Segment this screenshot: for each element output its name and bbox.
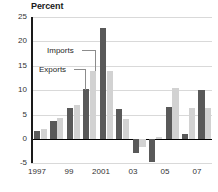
x-tick-2001: 2001 bbox=[86, 167, 116, 176]
exports-callout-label: Exports bbox=[39, 65, 66, 74]
bar-exports-2004 bbox=[149, 139, 155, 162]
exports-leader-vertical bbox=[85, 69, 86, 90]
gridline-10 bbox=[31, 90, 212, 91]
chart-title: Percent bbox=[31, 1, 63, 11]
bar-imports-1999 bbox=[74, 105, 80, 139]
x-tick-05: 05 bbox=[150, 167, 180, 176]
bar-imports-2003 bbox=[139, 139, 145, 147]
bar-exports-2005 bbox=[166, 107, 172, 139]
bar-exports-2006 bbox=[182, 134, 188, 138]
y-axis-line bbox=[31, 17, 33, 163]
y-tick-0: 0 bbox=[3, 135, 27, 143]
bar-imports-2007 bbox=[205, 108, 211, 139]
bar-imports-1998 bbox=[57, 118, 63, 138]
imports-callout-label: Imports bbox=[47, 46, 74, 55]
bar-imports-2001 bbox=[107, 71, 113, 139]
bar-exports-2003 bbox=[133, 139, 139, 153]
bar-exports-1998 bbox=[50, 121, 56, 139]
imports-leader-horizontal bbox=[82, 50, 96, 51]
y-tick-minus5: -5 bbox=[3, 159, 27, 167]
bar-exports-2007 bbox=[198, 90, 204, 139]
bar-imports-2000 bbox=[90, 71, 96, 139]
gridline-20 bbox=[31, 41, 212, 42]
x-tick-99: 99 bbox=[54, 167, 84, 176]
bar-exports-2000 bbox=[83, 89, 89, 139]
imports-leader-vertical bbox=[95, 50, 96, 71]
y-tick-10: 10 bbox=[3, 86, 27, 94]
y-tick-20: 20 bbox=[3, 37, 27, 45]
y-tick-15: 15 bbox=[3, 62, 27, 70]
y-tick-25: 25 bbox=[3, 13, 27, 21]
bar-exports-2001 bbox=[100, 28, 106, 138]
plot-area bbox=[31, 17, 212, 163]
bar-imports-2006 bbox=[189, 108, 195, 139]
bar-exports-1999 bbox=[67, 108, 73, 139]
bar-exports-1997 bbox=[34, 131, 40, 138]
zero-axis-line bbox=[31, 139, 212, 141]
bar-imports-2002 bbox=[123, 119, 129, 138]
bar-exports-2002 bbox=[116, 109, 122, 139]
chart-container: Percent 25 20 15 10 5 0 -5 1997 99 2001 … bbox=[0, 0, 218, 192]
x-tick-03: 03 bbox=[118, 167, 148, 176]
y-tick-5: 5 bbox=[3, 111, 27, 119]
bar-imports-2004 bbox=[156, 137, 162, 138]
gridline-25 bbox=[31, 17, 212, 18]
x-tick-07: 07 bbox=[182, 167, 212, 176]
gridline-minus5 bbox=[31, 163, 212, 164]
bar-imports-2005 bbox=[172, 88, 178, 139]
x-tick-1997: 1997 bbox=[22, 167, 52, 176]
bar-imports-1997 bbox=[41, 129, 47, 139]
